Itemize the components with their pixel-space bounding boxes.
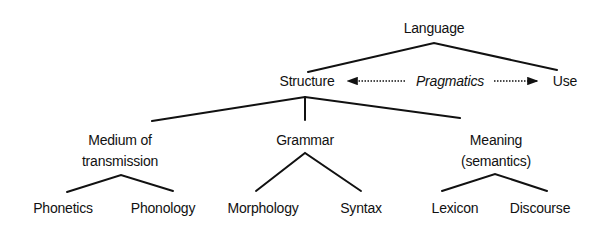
node-phonetics: Phonetics	[33, 200, 93, 217]
node-meaning-line2: (semantics)	[461, 153, 531, 170]
edge-language-structure-use	[308, 43, 557, 72]
tree-edges	[0, 0, 605, 229]
node-lexicon: Lexicon	[432, 200, 479, 217]
node-meaning-line1: Meaning	[461, 132, 531, 149]
node-medium-line2: transmission	[82, 153, 158, 170]
node-meaning: Meaning (semantics)	[461, 132, 531, 170]
node-morphology: Morphology	[227, 200, 298, 217]
node-phonology: Phonology	[131, 200, 195, 217]
node-use: Use	[553, 73, 577, 90]
node-language: Language	[404, 20, 465, 37]
node-discourse: Discourse	[510, 200, 570, 217]
edge-medium-children	[67, 175, 173, 192]
node-medium-line1: Medium of	[82, 132, 158, 149]
node-structure: Structure	[280, 73, 335, 90]
node-medium-of-transmission: Medium of transmission	[82, 132, 158, 170]
edge-meaning-children	[442, 174, 547, 191]
node-pragmatics: Pragmatics	[416, 73, 484, 90]
node-syntax: Syntax	[340, 200, 382, 217]
edge-grammar-children	[256, 153, 361, 191]
node-grammar: Grammar	[276, 132, 334, 149]
